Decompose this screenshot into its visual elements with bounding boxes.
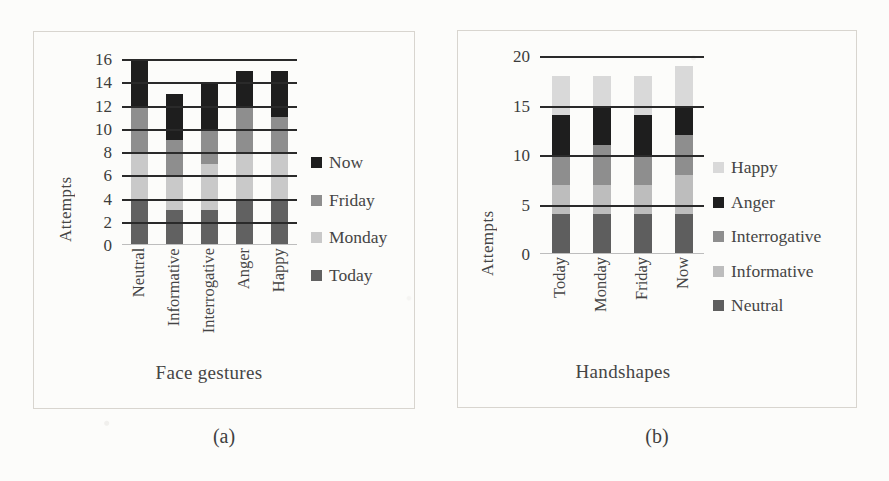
- gridline: [540, 205, 704, 207]
- bar-segment-anger[interactable]: [552, 115, 570, 155]
- bar-segment-monday[interactable]: [166, 175, 183, 210]
- gridline: [540, 106, 704, 108]
- bar-segment-interrogative[interactable]: [552, 155, 570, 185]
- legend-swatch-neutral: [713, 300, 724, 311]
- bar-segment-informative[interactable]: [634, 185, 652, 215]
- legend-item-now[interactable]: Now: [311, 154, 387, 172]
- bar-segment-now[interactable]: [271, 71, 288, 118]
- chart-a-y-axis-title: Attempts: [56, 92, 76, 242]
- y-tick-label: 4: [104, 190, 113, 207]
- x-tick-cell: Neutral: [131, 248, 148, 333]
- bar-segment-friday[interactable]: [271, 117, 288, 152]
- bar-segment-happy[interactable]: [593, 76, 611, 106]
- bar-segment-friday[interactable]: [201, 129, 218, 164]
- legend-swatch-now: [311, 157, 322, 168]
- chart-b-legend: HappyAngerInterrogativeInformativeNeutra…: [713, 159, 821, 315]
- chart-a-frame: Attempts 1614121086420 NeutralInformativ…: [33, 31, 415, 409]
- bar-segment-informative[interactable]: [593, 185, 611, 215]
- legend-label: Friday: [329, 192, 375, 210]
- chart-a-y-tick-labels: 1614121086420: [78, 32, 112, 408]
- legend-item-informative[interactable]: Informative: [713, 263, 821, 281]
- legend-item-happy[interactable]: Happy: [713, 159, 821, 177]
- legend-item-interrogative[interactable]: Interrogative: [713, 228, 821, 246]
- x-tick-cell: Interrogative: [201, 248, 218, 333]
- bar-segment-neutral[interactable]: [593, 214, 611, 254]
- x-tick-label: Happy: [271, 248, 288, 333]
- bar-segment-happy[interactable]: [552, 76, 570, 116]
- y-tick-label: 6: [104, 167, 113, 184]
- figure-row: Attempts 1614121086420 NeutralInformativ…: [0, 0, 889, 481]
- chart-b-x-tick-labels: TodayMondayFridayNow: [540, 257, 704, 312]
- bar-segment-interrogative[interactable]: [593, 145, 611, 185]
- bar-segment-today[interactable]: [166, 210, 183, 245]
- bar-segment-anger[interactable]: [593, 106, 611, 146]
- bar-segment-anger[interactable]: [675, 106, 693, 136]
- bar-segment-interrogative[interactable]: [634, 155, 652, 185]
- x-tick-cell: Happy: [271, 248, 288, 333]
- legend-label: Neutral: [731, 297, 783, 315]
- legend-item-anger[interactable]: Anger: [713, 194, 821, 212]
- gridline: [122, 129, 297, 131]
- legend-label: Informative: [731, 263, 814, 281]
- gridline: [122, 199, 297, 201]
- figure-caption-a: (a): [33, 425, 415, 448]
- chart-b-frame: Attempts 20151050 TodayMondayFridayNow H…: [457, 30, 857, 408]
- y-tick-label: 8: [104, 144, 113, 161]
- chart-a-x-axis-title: Face gestures: [74, 362, 344, 384]
- chart-b-y-tick-labels: 20151050: [496, 31, 530, 407]
- bar-segment-now[interactable]: [166, 94, 183, 141]
- y-tick-label: 2: [104, 213, 113, 230]
- y-tick-label: 12: [95, 97, 112, 114]
- bar-segment-happy[interactable]: [675, 66, 693, 106]
- bar-segment-neutral[interactable]: [675, 214, 693, 254]
- x-tick-label: Anger: [236, 248, 253, 333]
- x-axis-line: [122, 244, 297, 245]
- bar-segment-today[interactable]: [201, 210, 218, 245]
- gridline: [122, 59, 297, 61]
- x-tick-cell: Now: [675, 257, 693, 312]
- legend-label: Anger: [731, 194, 775, 212]
- bar-segment-informative[interactable]: [552, 185, 570, 215]
- chart-b-x-axis-title: Handshapes: [498, 361, 748, 383]
- panel-a: Attempts 1614121086420 NeutralInformativ…: [33, 31, 415, 409]
- gridline: [122, 222, 297, 224]
- legend-swatch-happy: [713, 162, 724, 173]
- bar-segment-neutral[interactable]: [552, 214, 570, 254]
- x-tick-label: Now: [675, 257, 692, 312]
- gridline: [122, 152, 297, 154]
- legend-swatch-interrogative: [713, 231, 724, 242]
- x-tick-cell: Informative: [166, 248, 183, 333]
- figure-caption-b: (b): [457, 425, 857, 448]
- bar-segment-informative[interactable]: [675, 175, 693, 215]
- x-tick-label: Informative: [166, 248, 183, 333]
- panel-b: Attempts 20151050 TodayMondayFridayNow H…: [457, 30, 857, 408]
- legend-item-monday[interactable]: Monday: [311, 229, 387, 247]
- bar-segment-friday[interactable]: [166, 140, 183, 175]
- x-tick-label: Today: [552, 257, 569, 312]
- bar-segment-monday[interactable]: [201, 164, 218, 211]
- x-tick-label: Interrogative: [201, 248, 218, 333]
- x-axis-line: [540, 253, 704, 254]
- legend-item-friday[interactable]: Friday: [311, 192, 387, 210]
- gridline: [122, 82, 297, 84]
- y-tick-label: 0: [522, 246, 531, 263]
- gridline: [540, 155, 704, 157]
- legend-swatch-anger: [713, 197, 724, 208]
- chart-a-plot-wrap: Attempts 1614121086420 NeutralInformativ…: [34, 32, 414, 408]
- bar-segment-anger[interactable]: [634, 115, 652, 155]
- legend-label: Monday: [329, 229, 387, 247]
- y-tick-label: 10: [513, 147, 530, 164]
- y-tick-label: 15: [513, 97, 530, 114]
- legend-swatch-today: [311, 270, 322, 281]
- legend-item-today[interactable]: Today: [311, 267, 387, 285]
- y-tick-label: 10: [95, 120, 112, 137]
- bar-segment-neutral[interactable]: [634, 214, 652, 254]
- bar-segment-now[interactable]: [236, 71, 253, 106]
- chart-a-x-tick-labels: NeutralInformativeInterrogativeAngerHapp…: [122, 248, 297, 333]
- legend-label: Now: [329, 154, 363, 172]
- y-tick-label: 0: [104, 237, 113, 254]
- x-tick-label: Monday: [593, 257, 610, 312]
- legend-swatch-informative: [713, 266, 724, 277]
- bar-segment-happy[interactable]: [634, 76, 652, 116]
- legend-item-neutral[interactable]: Neutral: [713, 297, 821, 315]
